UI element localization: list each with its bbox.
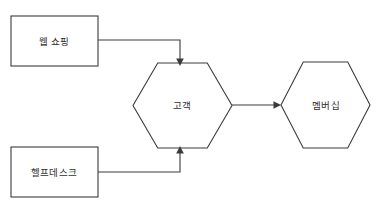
edge-help-desk-to-customer — [98, 152, 180, 172]
node-label-customer: 고객 — [173, 100, 191, 111]
node-label-web-shopping: 웹 쇼핑 — [39, 36, 69, 47]
diagram-canvas: 웹 쇼핑 헬프데스크 고객 멤버십 — [0, 0, 381, 205]
arrowhead-customer-to-membership — [274, 101, 282, 109]
node-label-membership: 멤버십 — [312, 100, 339, 111]
edge-web-shopping-to-customer — [98, 40, 180, 60]
node-label-help-desk: 헬프데스크 — [31, 167, 77, 178]
